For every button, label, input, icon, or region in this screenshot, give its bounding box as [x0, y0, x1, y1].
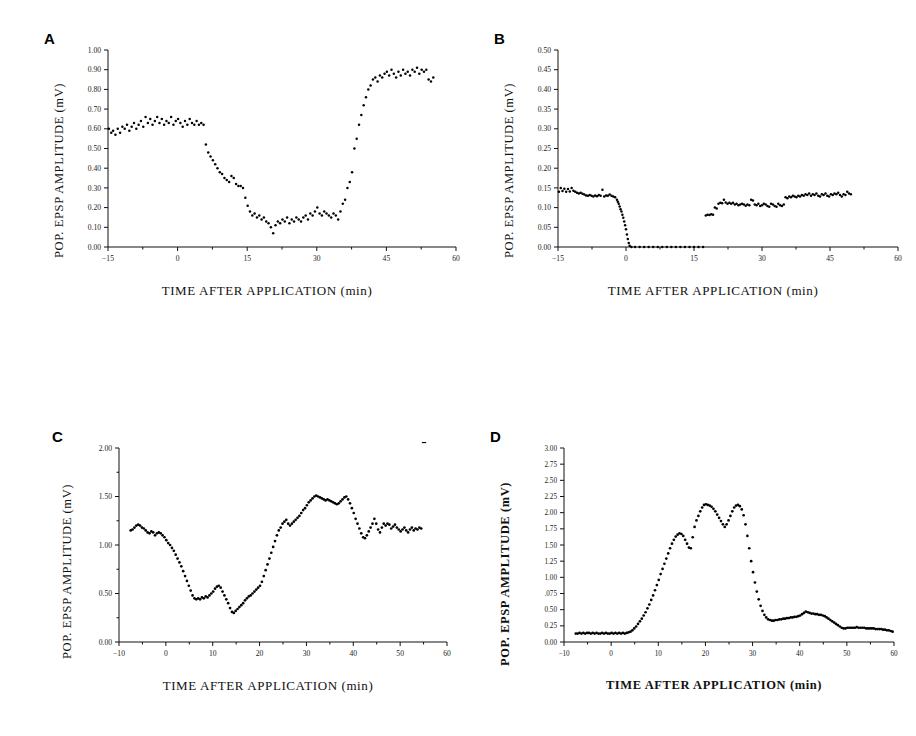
svg-text:0.25: 0.25: [544, 622, 557, 630]
svg-text:30: 30: [303, 649, 311, 658]
panel-a-plot-area: 0.000.100.200.300.400.500.600.700.800.90…: [72, 44, 462, 269]
panel-b-x-axis-label: TIME AFTER APPLICATION (min): [522, 283, 904, 299]
svg-text:15: 15: [243, 254, 251, 263]
svg-text:0.70: 0.70: [88, 105, 101, 114]
svg-text:60: 60: [890, 650, 898, 658]
svg-text:30: 30: [749, 650, 757, 658]
svg-text:0.90: 0.90: [88, 65, 101, 74]
svg-text:3.00: 3.00: [544, 445, 557, 453]
svg-text:45: 45: [383, 254, 391, 263]
svg-text:15: 15: [690, 254, 698, 263]
panel-b-plot-area: 0.000.050.100.150.200.250.300.350.400.45…: [522, 44, 904, 269]
svg-text:0.00: 0.00: [544, 639, 557, 647]
svg-text:0.00: 0.00: [88, 243, 101, 252]
svg-text:1.00: 1.00: [88, 46, 101, 55]
svg-text:50: 50: [843, 650, 851, 658]
svg-text:0: 0: [164, 649, 168, 658]
panel-c-letter: C: [52, 428, 63, 445]
panel-c-x-axis-label: TIME AFTER APPLICATION (min): [82, 678, 454, 694]
svg-text:0.20: 0.20: [538, 164, 551, 173]
panel-d: D POP. EPSP AMPLITUDE (mV) 0.000.250.50.…: [452, 400, 916, 736]
svg-text:2.75: 2.75: [544, 461, 557, 469]
svg-text:0.20: 0.20: [88, 203, 101, 212]
svg-text:0.05: 0.05: [538, 223, 551, 232]
svg-text:1.00: 1.00: [544, 574, 557, 582]
svg-text:0.50: 0.50: [544, 606, 557, 614]
svg-text:40: 40: [796, 650, 804, 658]
svg-text:20: 20: [256, 649, 264, 658]
svg-text:0.35: 0.35: [538, 105, 551, 114]
svg-text:45: 45: [826, 254, 834, 263]
panel-a-x-axis-label: TIME AFTER APPLICATION (min): [72, 283, 462, 299]
svg-text:0.50: 0.50: [538, 46, 551, 55]
svg-text:1.50: 1.50: [544, 542, 557, 550]
svg-text:1.50: 1.50: [99, 492, 112, 501]
svg-text:0.10: 0.10: [538, 203, 551, 212]
svg-text:10: 10: [209, 649, 217, 658]
svg-text:0.40: 0.40: [538, 85, 551, 94]
svg-text:0: 0: [624, 254, 628, 263]
panel-c-plot-area: 0.000.501.001.502.00−100102030405060: [85, 442, 453, 664]
svg-text:−10: −10: [113, 649, 125, 658]
svg-text:0.00: 0.00: [99, 638, 112, 647]
figure-canvas: A POP. EPSP AMPLITUDE (mV) 0.000.100.200…: [0, 0, 916, 736]
svg-text:40: 40: [349, 649, 357, 658]
svg-text:2.00: 2.00: [544, 509, 557, 517]
svg-text:0.00: 0.00: [538, 243, 551, 252]
svg-text:0.50: 0.50: [88, 144, 101, 153]
svg-text:0.25: 0.25: [538, 144, 551, 153]
svg-text:0.10: 0.10: [88, 223, 101, 232]
svg-text:2.25: 2.25: [544, 493, 557, 501]
panel-b-y-axis-label: POP. EPSP AMPLITUDE (mV): [502, 48, 517, 258]
panel-d-y-axis-label: POP. EPSP AMPLITUDE (mV): [498, 440, 513, 666]
panel-c: C POP. EPSP AMPLITUDE (mV) 0.000.501.001…: [0, 400, 470, 736]
panel-a-y-axis-label: POP. EPSP AMPLITUDE (mV): [52, 48, 67, 258]
svg-text:0.60: 0.60: [88, 124, 101, 133]
svg-text:0.40: 0.40: [88, 164, 101, 173]
svg-text:2.50: 2.50: [544, 477, 557, 485]
panel-d-plot-area: 0.000.250.50.0751.001.251.501.752.002.25…: [528, 442, 900, 664]
panel-d-x-axis-label: TIME AFTER APPLICATION (min): [524, 678, 904, 693]
svg-text:20: 20: [702, 650, 710, 658]
svg-text:1.25: 1.25: [544, 558, 557, 566]
panel-c-y-axis-label: POP. EPSP AMPLITUDE (mV): [60, 444, 75, 659]
svg-text:30: 30: [313, 254, 321, 263]
svg-text:10: 10: [655, 650, 663, 658]
svg-text:−15: −15: [552, 254, 564, 263]
svg-text:0.30: 0.30: [538, 124, 551, 133]
svg-text:0.45: 0.45: [538, 65, 551, 74]
panel-a: A POP. EPSP AMPLITUDE (mV) 0.000.100.200…: [0, 0, 470, 310]
svg-text:0.50: 0.50: [99, 589, 112, 598]
svg-text:.075: .075: [544, 590, 557, 598]
svg-text:0.30: 0.30: [88, 184, 101, 193]
svg-text:−10: −10: [558, 650, 570, 658]
svg-text:0.80: 0.80: [88, 85, 101, 94]
svg-text:60: 60: [894, 254, 902, 263]
svg-text:1.00: 1.00: [99, 541, 112, 550]
svg-text:60: 60: [443, 649, 451, 658]
svg-text:0: 0: [609, 650, 613, 658]
svg-text:30: 30: [758, 254, 766, 263]
svg-text:0: 0: [176, 254, 180, 263]
svg-text:1.75: 1.75: [544, 525, 557, 533]
svg-text:50: 50: [396, 649, 404, 658]
panel-a-letter: A: [44, 30, 55, 47]
svg-text:2.00: 2.00: [99, 444, 112, 453]
panel-b-letter: B: [494, 30, 505, 47]
svg-text:0.15: 0.15: [538, 184, 551, 193]
svg-text:−15: −15: [102, 254, 114, 263]
panel-b: B POP. EPSP AMPLITUDE (mV) 0.000.050.100…: [452, 0, 916, 310]
